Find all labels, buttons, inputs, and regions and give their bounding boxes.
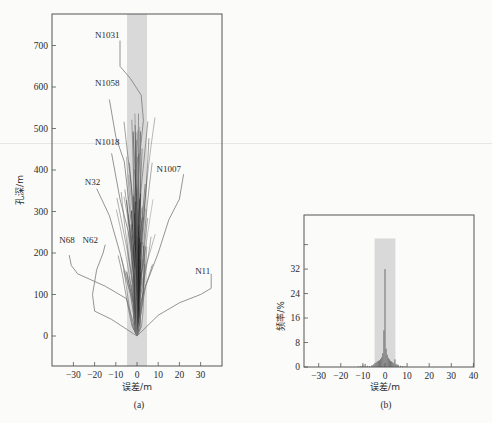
y-axis-label: 频率/% bbox=[275, 301, 286, 331]
y-tick-label: 300 bbox=[34, 207, 49, 217]
histogram-bar bbox=[378, 361, 379, 367]
caption-a: (a) bbox=[134, 400, 145, 411]
histogram-bar bbox=[380, 359, 381, 367]
histogram-bar bbox=[387, 355, 388, 367]
histogram-bar bbox=[392, 362, 393, 367]
y-tick-label: 400 bbox=[34, 165, 49, 175]
y-tick-label: 0 bbox=[43, 331, 48, 341]
histogram-bar bbox=[382, 353, 383, 367]
well-label: N1031 bbox=[95, 30, 120, 40]
well-label: N62 bbox=[83, 235, 99, 245]
y-tick-label: 16 bbox=[291, 313, 301, 323]
trajectory-n68 bbox=[69, 255, 137, 336]
histogram-bar bbox=[384, 269, 385, 367]
x-tick-label: −20 bbox=[333, 371, 348, 381]
histogram-bar bbox=[377, 361, 378, 367]
histogram-bar bbox=[381, 357, 382, 367]
y-tick-label: 200 bbox=[34, 248, 49, 258]
y-tick-label: 32 bbox=[291, 264, 301, 274]
y-tick-label: 0 bbox=[295, 362, 300, 372]
well-label: N68 bbox=[59, 235, 75, 245]
histogram-bar bbox=[389, 359, 390, 367]
well-label: N1058 bbox=[95, 78, 120, 88]
x-tick-label: −10 bbox=[108, 370, 123, 380]
well-label: N1007 bbox=[157, 164, 182, 174]
x-tick-label: −10 bbox=[355, 371, 370, 381]
histogram-bar bbox=[383, 330, 384, 367]
histogram-bar bbox=[390, 361, 391, 367]
well-label: N11 bbox=[195, 266, 210, 276]
x-tick-label: 10 bbox=[153, 370, 163, 380]
y-tick-label: 24 bbox=[291, 289, 301, 299]
x-axis-label: 误差/m bbox=[122, 381, 152, 392]
chart-a-borehole-trajectories: N1031N1058N1018N1007N32N68N62N1101002003… bbox=[15, 14, 222, 411]
caption-b: (b) bbox=[380, 400, 391, 411]
histogram-bar bbox=[388, 358, 389, 367]
histogram-bar bbox=[376, 362, 377, 367]
y-tick-label: 500 bbox=[34, 124, 49, 134]
trajectory-n11 bbox=[137, 274, 211, 336]
x-tick-label: −20 bbox=[87, 370, 102, 380]
y-axis-label: 孔深/m bbox=[15, 175, 25, 205]
x-tick-label: −30 bbox=[66, 370, 81, 380]
x-tick-label: 30 bbox=[447, 371, 457, 381]
histogram-bar bbox=[375, 363, 376, 367]
histogram-bar bbox=[379, 360, 380, 367]
x-tick-label: 20 bbox=[175, 370, 185, 380]
well-label: N32 bbox=[85, 177, 101, 187]
x-tick-label: 0 bbox=[383, 371, 388, 381]
histogram-bar bbox=[394, 359, 395, 367]
histogram-bar bbox=[391, 361, 392, 367]
x-tick-label: 40 bbox=[469, 371, 479, 381]
x-tick-label: 20 bbox=[424, 371, 434, 381]
chart-b-error-histogram: 08162432−30−20−10010203040误差/m频率/%(b) bbox=[275, 215, 478, 411]
histogram-bar bbox=[393, 363, 394, 367]
y-tick-label: 100 bbox=[34, 290, 49, 300]
well-label: N1018 bbox=[95, 137, 120, 147]
x-tick-label: 0 bbox=[135, 370, 140, 380]
histogram-bar bbox=[386, 349, 387, 367]
x-tick-label: 30 bbox=[196, 370, 206, 380]
x-tick-label: 10 bbox=[402, 371, 412, 381]
y-tick-label: 600 bbox=[34, 82, 49, 92]
y-tick-label: 8 bbox=[295, 338, 300, 348]
figure: N1031N1058N1018N1007N32N68N62N1101002003… bbox=[0, 0, 492, 423]
y-tick-label: 700 bbox=[34, 41, 49, 51]
x-tick-label: −30 bbox=[311, 371, 326, 381]
x-axis-label: 误差/m bbox=[370, 381, 400, 392]
